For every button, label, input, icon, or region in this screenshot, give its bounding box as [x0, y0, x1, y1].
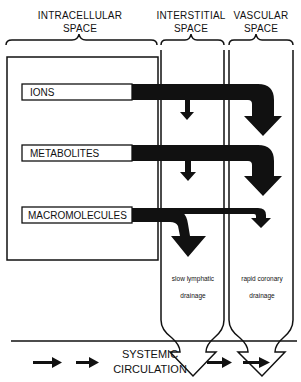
brace-intracellular	[6, 34, 157, 45]
label-macromolecules: MACROMOLECULES	[28, 210, 127, 221]
header-line: SPACE	[150, 22, 232, 35]
header-line: VASCULAR	[228, 9, 294, 22]
header-line: SPACE	[30, 22, 130, 35]
systemic-circulation-label: SYSTEMIC CIRCULATION	[100, 347, 200, 377]
header-intracellular: INTRACELLULAR SPACE	[30, 9, 130, 35]
metabolites-arrows	[132, 145, 282, 196]
header-line: SPACE	[228, 22, 294, 35]
drainage-line: slow lymphatic	[162, 270, 224, 287]
label-ions: IONS	[30, 87, 54, 98]
drainage-line: drainage	[230, 287, 294, 304]
diagram-canvas	[0, 0, 301, 382]
coronary-drainage-label: rapid coronary drainage	[230, 270, 294, 304]
drainage-line: drainage	[162, 287, 224, 304]
drainage-line: rapid coronary	[230, 270, 294, 287]
header-braces	[6, 34, 293, 45]
macromolecules-arrows	[132, 208, 271, 257]
ions-arrows	[132, 84, 282, 136]
label-metabolites: METABOLITES	[30, 148, 99, 159]
header-line: INTERSTITIAL	[150, 9, 232, 22]
header-interstitial: INTERSTITIAL SPACE	[150, 9, 232, 35]
header-vascular: VASCULAR SPACE	[228, 9, 294, 35]
header-line: INTRACELLULAR	[30, 9, 130, 22]
lymphatic-drainage-label: slow lymphatic drainage	[162, 270, 224, 304]
footer-line: SYSTEMIC	[100, 347, 200, 362]
footer-line: CIRCULATION	[100, 362, 200, 377]
